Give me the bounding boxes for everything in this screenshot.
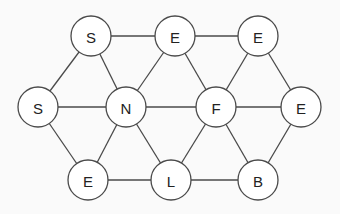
node-l-n8: L	[151, 160, 191, 200]
node-label: L	[167, 173, 175, 190]
node-b-n9: B	[238, 160, 278, 200]
node-label: E	[83, 173, 93, 190]
node-n-n4: N	[106, 87, 146, 127]
node-label: S	[33, 100, 43, 117]
node-label: S	[86, 29, 96, 46]
node-f-n5: F	[196, 87, 236, 127]
node-label: B	[253, 173, 263, 190]
node-e-n1: E	[155, 16, 195, 56]
node-label: E	[170, 29, 180, 46]
node-e-n7: E	[68, 160, 108, 200]
node-label: E	[296, 100, 306, 117]
node-e-n2: E	[238, 16, 278, 56]
node-s-n3: S	[18, 87, 58, 127]
node-s-n0: S	[71, 16, 111, 56]
node-e-n6: E	[281, 87, 321, 127]
letter-graph-diagram: SEESNFEELB	[0, 0, 340, 214]
node-label: E	[253, 29, 263, 46]
node-label: F	[211, 100, 220, 117]
node-label: N	[121, 100, 132, 117]
